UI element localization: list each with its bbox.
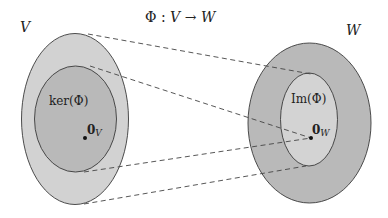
kernel-ellipse: [35, 66, 117, 172]
image-label: Im(Φ): [291, 92, 326, 106]
linear-map-diagram: Φ : V → W V W ker(Φ) Im(Φ) 0V 0W: [0, 0, 388, 218]
kernel-label: ker(Φ): [49, 94, 88, 108]
space-w-label: W: [346, 22, 362, 38]
image-ellipse: [281, 73, 338, 166]
space-v-label: V: [20, 19, 32, 35]
map-title: Φ : V → W: [145, 9, 217, 25]
